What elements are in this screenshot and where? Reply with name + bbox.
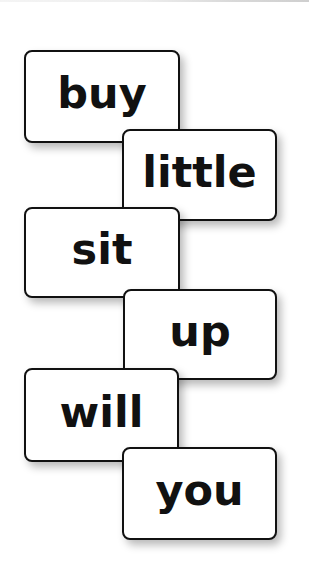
top-edge-divider: [0, 0, 309, 2]
card-word: will: [60, 391, 144, 440]
word-card-you: you: [122, 447, 277, 540]
card-word: you: [155, 469, 243, 518]
card-word: up: [169, 310, 230, 359]
word-card-sit: sit: [24, 207, 180, 298]
word-card-up: up: [123, 289, 277, 380]
card-word: sit: [72, 228, 133, 277]
card-word: buy: [57, 72, 146, 121]
card-word: little: [142, 151, 257, 200]
